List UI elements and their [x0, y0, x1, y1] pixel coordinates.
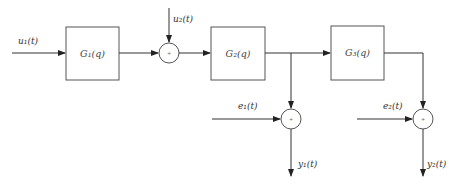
- y1-label: y₁(t): [297, 159, 318, 169]
- y2-label: y₂(t): [426, 159, 447, 169]
- output-y1: y₁(t): [291, 129, 318, 176]
- output-y2: y₂(t): [423, 129, 447, 176]
- sum1-plus: +: [167, 50, 171, 56]
- summing-junction-3: +: [413, 109, 433, 129]
- g3-to-sum3-arrow: [384, 53, 423, 108]
- input-e2: e₂(t): [357, 101, 412, 119]
- sum2-plus: +: [289, 116, 293, 122]
- e2-label: e₂(t): [383, 101, 403, 111]
- input-e1: e₁(t): [212, 101, 280, 119]
- input-u2: u₂(t): [169, 8, 194, 42]
- input-u1: u₁(t): [12, 36, 65, 53]
- g2-label: G₂(q): [226, 48, 251, 59]
- g1-label: G₁(q): [80, 48, 105, 59]
- summing-junction-1: +: [159, 43, 179, 63]
- block-diagram: u₁(t) G₁(q) u₂(t) + G₂(q) G₃(q) e₁(t): [0, 0, 459, 193]
- g3-label: G₃(q): [345, 47, 370, 58]
- summing-junction-2: +: [281, 109, 301, 129]
- sum3-plus: +: [421, 116, 425, 122]
- u2-label: u₂(t): [173, 14, 194, 24]
- e1-label: e₁(t): [238, 101, 258, 111]
- block-g1: G₁(q): [66, 27, 119, 80]
- u1-label: u₁(t): [18, 36, 39, 46]
- block-g3: G₃(q): [331, 26, 384, 80]
- block-g2: G₂(q): [211, 27, 265, 80]
